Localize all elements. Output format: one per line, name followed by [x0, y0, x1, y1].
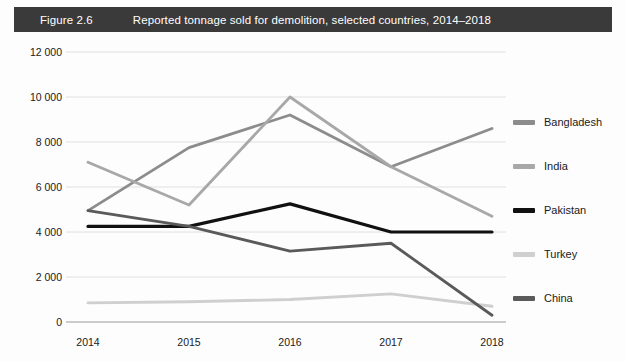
legend-label: Bangladesh — [544, 116, 602, 128]
legend-label: India — [544, 160, 568, 172]
legend-swatch-icon — [513, 164, 535, 169]
x-tick-label: 2014 — [76, 336, 99, 348]
x-tick-label: 2018 — [480, 336, 503, 348]
legend-item-china[interactable]: China — [513, 291, 573, 305]
legend-label: Turkey — [544, 248, 577, 260]
legend-item-bangladesh[interactable]: Bangladesh — [513, 115, 602, 129]
legend-label: China — [544, 292, 573, 304]
legend-swatch-icon — [513, 296, 535, 301]
x-tick-label: 2017 — [379, 336, 402, 348]
figure-number: Figure 2.6 — [40, 14, 93, 26]
chart-legend: BangladeshIndiaPakistanTurkeyChina — [513, 32, 626, 362]
legend-item-pakistan[interactable]: Pakistan — [513, 203, 586, 217]
legend-label: Pakistan — [544, 204, 586, 216]
x-tick-label: 2016 — [278, 336, 301, 348]
figure-title: Reported tonnage sold for demolition, se… — [133, 14, 491, 26]
legend-item-india[interactable]: India — [513, 159, 568, 173]
figure-container: Figure 2.6 Reported tonnage sold for dem… — [0, 0, 626, 362]
legend-item-turkey[interactable]: Turkey — [513, 247, 577, 261]
legend-swatch-icon — [513, 252, 535, 257]
x-tick-label: 2015 — [177, 336, 200, 348]
legend-swatch-icon — [513, 120, 535, 125]
legend-swatch-icon — [513, 208, 535, 213]
figure-title-bar: Figure 2.6 Reported tonnage sold for dem… — [14, 7, 612, 32]
